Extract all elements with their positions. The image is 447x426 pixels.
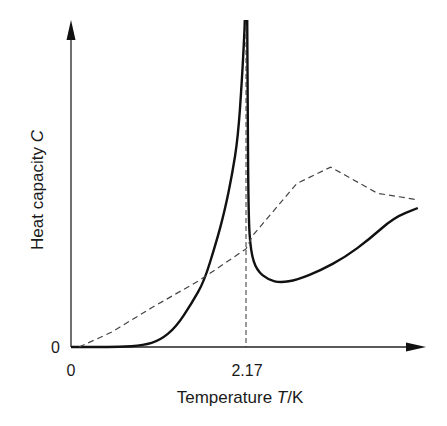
y-axis-title-text: Heat capacity	[28, 142, 47, 250]
y-axis-arrow-icon	[67, 20, 76, 40]
x-axis-title-unit: /K	[287, 388, 304, 407]
y-axis-title: Heat capacity C	[28, 129, 47, 250]
y-tick-label-0: 0	[51, 339, 60, 356]
solid-curve-left-branch	[71, 20, 245, 347]
heat-capacity-chart: 0 0 2.17 Temperature T/K Heat capacity C	[0, 0, 447, 426]
y-axis-title-variable: C	[28, 129, 47, 142]
x-tick-label-0: 0	[67, 362, 76, 379]
x-axis-title-text: Temperature	[177, 388, 277, 407]
x-axis-arrow-icon	[406, 343, 426, 352]
plot-series	[71, 20, 418, 347]
x-tick-label-lambda: 2.17	[231, 362, 262, 379]
x-axis-title: Temperature T/K	[177, 388, 304, 407]
solid-curve-right-branch	[247, 20, 418, 282]
